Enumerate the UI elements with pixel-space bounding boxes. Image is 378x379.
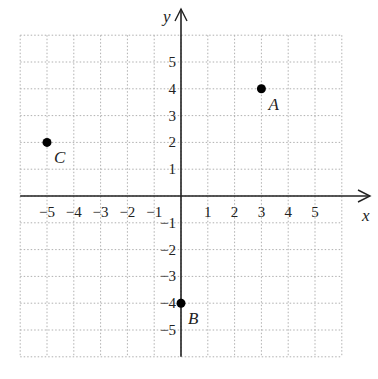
point-a: [257, 84, 266, 93]
y-tick-label: 4: [169, 81, 177, 97]
x-tick-label: 1: [204, 204, 212, 220]
y-tick-label: 2: [169, 134, 177, 150]
point-label-c: C: [54, 148, 66, 167]
y-tick-label: −2: [160, 242, 176, 258]
axes: xy: [20, 7, 370, 357]
x-tick-label: 2: [231, 204, 239, 220]
x-tick-label: −4: [66, 204, 82, 220]
y-tick-label: −1: [160, 215, 176, 231]
x-tick-label: −5: [39, 204, 55, 220]
x-tick-label: 5: [311, 204, 319, 220]
y-tick-label: 5: [169, 54, 177, 70]
y-tick-label: 3: [169, 108, 177, 124]
point-label-a: A: [267, 95, 279, 114]
x-tick-label: 3: [258, 204, 266, 220]
x-tick-label: 4: [284, 204, 292, 220]
x-tick-label: −3: [93, 204, 109, 220]
x-tick-label: −2: [119, 204, 135, 220]
y-tick-label: 1: [169, 161, 177, 177]
y-tick-label: −3: [160, 268, 176, 284]
point-label-b: B: [188, 309, 199, 328]
point-c: [43, 138, 52, 147]
y-tick-label: −5: [160, 322, 176, 338]
y-axis-label: y: [161, 7, 171, 26]
point-b: [177, 299, 186, 308]
y-tick-label: −4: [160, 295, 176, 311]
x-axis-label: x: [361, 206, 370, 225]
coordinate-plane: xy −5−4−3−2−11234554321−1−2−3−4−5 ABC: [0, 0, 378, 379]
